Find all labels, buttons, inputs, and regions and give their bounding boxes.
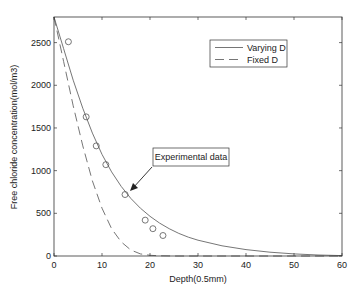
x-axis-label: Depth(0.5mm)	[169, 274, 227, 284]
x-tick-label: 0	[51, 260, 56, 270]
y-tick-label: 1500	[31, 123, 51, 133]
y-tick-label: 2000	[31, 80, 51, 90]
y-tick-label: 2500	[31, 38, 51, 48]
y-tick-label: 1000	[31, 166, 51, 176]
legend: Varying D Fixed D	[210, 40, 287, 67]
legend-label-fixed-d: Fixed D	[247, 55, 279, 65]
legend-label-varying-d: Varying D	[247, 43, 286, 53]
x-tick-label: 30	[193, 260, 203, 270]
y-axis-label: Free chloride concentration(mol/m3)	[9, 65, 19, 210]
chart: 010203040506005001000150020002500 Depth(…	[0, 0, 362, 293]
x-tick-label: 20	[145, 260, 155, 270]
x-tick-label: 10	[97, 260, 107, 270]
plot-area	[54, 17, 342, 256]
x-tick-label: 60	[337, 260, 347, 270]
x-tick-label: 50	[289, 260, 299, 270]
y-tick-label: 500	[36, 208, 51, 218]
y-tick-label: 0	[46, 251, 51, 261]
annotation-text: Experimental data	[155, 152, 228, 162]
x-tick-label: 40	[241, 260, 251, 270]
